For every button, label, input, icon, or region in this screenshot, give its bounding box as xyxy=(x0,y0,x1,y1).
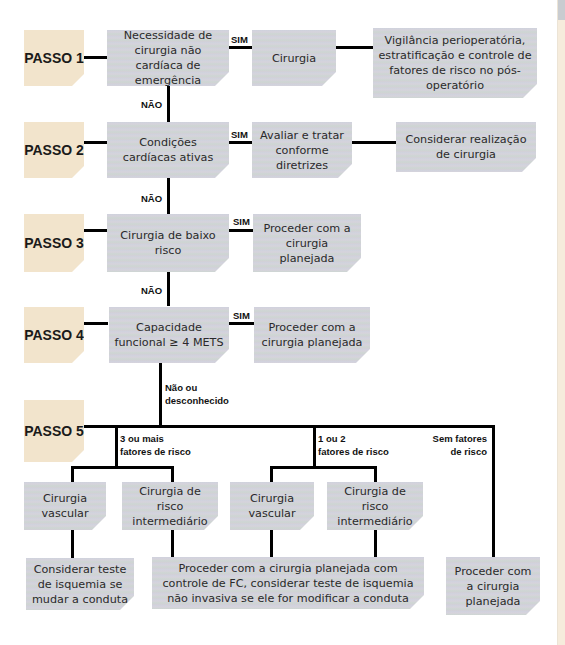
connector-line xyxy=(84,56,108,59)
row3-proceed-box: Proceder com a cirurgia planejada xyxy=(253,214,361,272)
row1-surgery-box: Cirurgia xyxy=(252,30,336,86)
step-5-box: PASSO 5 xyxy=(24,400,84,462)
connector-line xyxy=(84,229,108,232)
branch-c-label-2: de risco xyxy=(430,445,487,458)
connector-line xyxy=(229,322,255,325)
connector-line xyxy=(159,363,162,427)
connector-line xyxy=(374,466,377,482)
connector-line xyxy=(336,46,374,49)
no-or-unknown-label-2: desconhecido xyxy=(165,394,229,407)
no-label: NÃO xyxy=(141,98,162,111)
connector-line xyxy=(167,178,170,214)
branch-c-outcome-box: Proceder com a cirurgia planejada xyxy=(446,557,540,615)
branch-b-label-1: 1 ou 2 xyxy=(318,432,345,445)
connector-line xyxy=(84,425,495,428)
yes-label: SIM xyxy=(231,33,248,46)
connector-line xyxy=(71,530,74,558)
step-3-box: PASSO 3 xyxy=(24,214,84,272)
row2-outcome-box: Considerar realização de cirurgia xyxy=(396,122,536,172)
connector-line xyxy=(71,466,74,482)
connector-line xyxy=(84,141,108,144)
no-or-unknown-label-1: Não ou xyxy=(165,381,197,394)
connector-line xyxy=(270,466,273,482)
connector-line xyxy=(71,466,174,469)
branch-c-label-1: Sem fatores xyxy=(430,432,487,445)
branch-a-vascular-box: Cirurgia vascular xyxy=(24,482,106,530)
connector-line xyxy=(313,425,316,469)
branch-a-label-2: fatores de risco xyxy=(120,445,191,458)
yes-label: SIM xyxy=(233,215,250,228)
connector-line xyxy=(270,530,273,558)
connector-line xyxy=(352,141,398,144)
yes-label: SIM xyxy=(233,309,250,322)
branch-a-label-1: 3 ou mais xyxy=(120,432,164,445)
row2-question-box: Condições cardíacas ativas xyxy=(107,122,229,178)
page-edge-cap xyxy=(558,0,565,20)
connector-line xyxy=(270,466,377,469)
row4-proceed-box: Proceder com a cirurgia planejada xyxy=(254,307,370,363)
step-4-box: PASSO 4 xyxy=(24,307,84,363)
connector-line xyxy=(84,322,108,325)
branch-b-vascular-box: Cirurgia vascular xyxy=(230,482,314,530)
page-edge-strip xyxy=(557,0,565,645)
connector-line xyxy=(374,530,377,558)
step-2-box: PASSO 2 xyxy=(24,122,84,178)
row2-evaluate-box: Avaliar e tratar conforme diretrizes xyxy=(252,122,352,178)
connector-line xyxy=(229,229,253,232)
connector-line xyxy=(171,466,174,482)
step-1-box: PASSO 1 xyxy=(24,30,84,86)
branch-a-intermediate-box: Cirurgia de risco intermediário xyxy=(122,482,218,530)
row3-question-box: Cirurgia de baixo risco xyxy=(107,214,229,272)
connector-line xyxy=(115,425,118,469)
branch-b-intermediate-box: Cirurgia de risco intermediário xyxy=(327,482,423,530)
yes-label: SIM xyxy=(231,128,248,141)
row1-question-box: Necessidade de cirurgia não cardíaca de … xyxy=(107,30,229,86)
connector-line xyxy=(167,272,170,306)
row1-outcome-box: Vigilância perioperatória, estratificaçã… xyxy=(373,28,537,98)
row4-question-box: Capacidade funcional ≥ 4 METS xyxy=(109,307,229,363)
branch-b-outcome-box: Proceder com a cirurgia planejada com co… xyxy=(152,557,424,609)
connector-line xyxy=(171,530,174,558)
branch-b-label-2: fatores de risco xyxy=(318,445,389,458)
connector-line xyxy=(167,86,170,122)
branch-a-outcome-box: Considerar teste de isquemia se mudar a … xyxy=(26,558,134,610)
connector-line xyxy=(229,46,253,49)
no-label: NÃO xyxy=(141,192,162,205)
connector-line xyxy=(492,425,495,557)
connector-line xyxy=(229,141,253,144)
no-label: NÃO xyxy=(141,284,162,297)
